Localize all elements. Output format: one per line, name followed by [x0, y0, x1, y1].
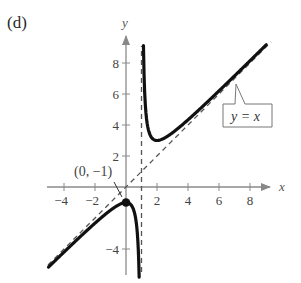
point-marker — [122, 198, 131, 207]
point-label: (0, −1) — [74, 164, 113, 180]
y-tick-label: 8 — [113, 56, 120, 71]
callout-box: y = x — [223, 84, 272, 127]
y-tick-label: 2 — [113, 149, 120, 164]
y-axis-label: y — [120, 15, 128, 30]
callout-label: y = x — [229, 109, 261, 124]
x-tick-label: 8 — [247, 193, 254, 208]
x-tick-label: −2 — [85, 193, 99, 208]
x-tick-label: 4 — [185, 193, 192, 208]
graph: x y −4−22468 −42468 (0, −1) y = x — [0, 0, 301, 283]
x-tick-label: 6 — [216, 193, 223, 208]
x-axis-label: x — [278, 179, 285, 194]
x-tick-label: −4 — [54, 193, 68, 208]
y-tick-label: 4 — [113, 118, 120, 133]
x-tick-label: 2 — [154, 193, 161, 208]
y-tick-label: 6 — [113, 87, 120, 102]
y-tick-label: −4 — [105, 242, 119, 257]
oblique-asymptote — [48, 42, 271, 265]
